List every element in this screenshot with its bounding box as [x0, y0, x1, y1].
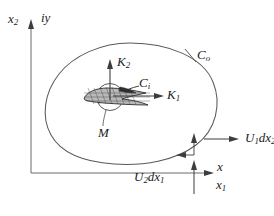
vertical-axis-arrowhead	[28, 19, 34, 29]
moment-label-m: M	[98, 126, 109, 139]
axis-label-iy: iy	[41, 11, 50, 24]
force-label-k1: K1	[167, 88, 180, 103]
k1-arrow-head	[154, 93, 164, 99]
de-tangent-arrowhead	[176, 152, 186, 158]
outer-contour-label: Co	[197, 48, 210, 63]
displacement-label-u2dx1: U2dx1	[134, 170, 165, 185]
de-normal-arrowhead	[191, 133, 197, 143]
axis-label-x1: x1	[216, 178, 226, 193]
k2-arrow-head	[107, 59, 113, 69]
u2dx1-arrow-head	[191, 160, 197, 170]
force-label-k2: K2	[117, 55, 130, 70]
u1dx2-arrow-head	[229, 136, 239, 142]
horizontal-axis-arrowhead	[204, 170, 214, 176]
axis-label-x2: x2	[8, 12, 18, 27]
figure-canvas: x2 iy x1 x Co Ci K2 K1 M U1dx2 U2dx1	[0, 0, 274, 216]
moment-leader-line	[103, 110, 106, 126]
axis-label-x: x	[217, 160, 223, 173]
inner-contour-label: Ci	[139, 76, 150, 91]
displacement-label-u1dx2: U1dx2	[245, 131, 274, 146]
